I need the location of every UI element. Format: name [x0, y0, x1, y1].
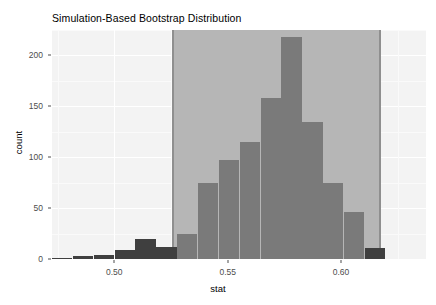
x-axis-tick-label: 0.55 [219, 267, 236, 277]
y-axis-tick-label: 200 [0, 50, 43, 60]
histogram-bar [135, 239, 155, 259]
chart-root: Simulation-Based Bootstrap Distribution … [0, 0, 436, 305]
histogram-bar [240, 142, 260, 259]
y-axis-tick-label: 0 [0, 254, 43, 264]
histogram-bar [115, 250, 135, 259]
chart-title: Simulation-Based Bootstrap Distribution [52, 12, 242, 24]
histogram-bar [344, 212, 364, 259]
x-axis-tick-mark [114, 260, 115, 263]
histogram-bar [323, 183, 343, 259]
gridline-major-vertical [114, 30, 115, 259]
histogram-bar [302, 122, 322, 259]
x-axis-tick-label: 0.60 [333, 267, 350, 277]
y-axis-tick-mark [48, 55, 51, 56]
histogram-bar [73, 256, 93, 259]
x-axis-tick-mark [227, 260, 228, 263]
y-axis-tick-mark [48, 208, 51, 209]
histogram-bar [94, 255, 114, 259]
histogram-bar [365, 248, 385, 259]
y-axis-tick-mark [48, 106, 51, 107]
histogram-bar [261, 98, 281, 259]
y-axis-tick-label: 150 [0, 101, 43, 111]
gridline-minor-vertical [398, 30, 399, 259]
x-axis-tick-mark [341, 260, 342, 263]
histogram-bar [198, 183, 218, 259]
plot-panel [52, 30, 426, 259]
confidence-interval-edge-upper [379, 30, 381, 259]
histogram-bar [156, 247, 176, 259]
confidence-interval-edge-lower [172, 30, 174, 259]
y-axis-label: count [13, 113, 24, 173]
y-axis-tick-label: 50 [0, 203, 43, 213]
gridline-minor-vertical [58, 30, 59, 259]
x-axis-label: stat [0, 283, 436, 294]
x-axis-tick-label: 0.50 [106, 267, 123, 277]
y-axis-tick-mark [48, 259, 51, 260]
y-axis-tick-mark [48, 157, 51, 158]
histogram-bar [177, 234, 197, 259]
histogram-bar [281, 37, 301, 259]
histogram-bar [52, 258, 72, 259]
histogram-bar [219, 160, 239, 259]
